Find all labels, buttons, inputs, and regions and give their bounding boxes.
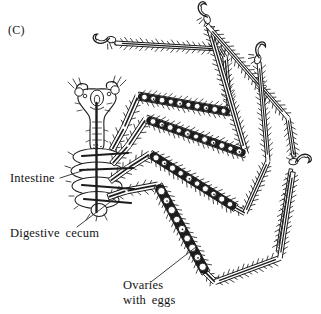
claw-icon (92, 34, 118, 51)
label-ovaries-line1: Ovaries (123, 278, 176, 293)
panel-label: (C) (8, 23, 25, 38)
egg-row (150, 119, 242, 155)
label-ovaries-line2: with eggs (123, 293, 176, 308)
claw-icon (246, 39, 266, 66)
label-intestine: Intestine (10, 171, 55, 186)
leader-line-ovaries (151, 247, 196, 282)
figure-panel: (C) Intestine Digestive cecum Ovaries wi… (0, 0, 321, 314)
label-ovaries-with-eggs: Ovaries with eggs (123, 278, 176, 308)
label-digestive-cecum: Digestive cecum (10, 226, 99, 241)
leg-2-distal (205, 24, 299, 158)
sea-spider-illustration (0, 0, 321, 314)
claw-icon (286, 149, 312, 167)
